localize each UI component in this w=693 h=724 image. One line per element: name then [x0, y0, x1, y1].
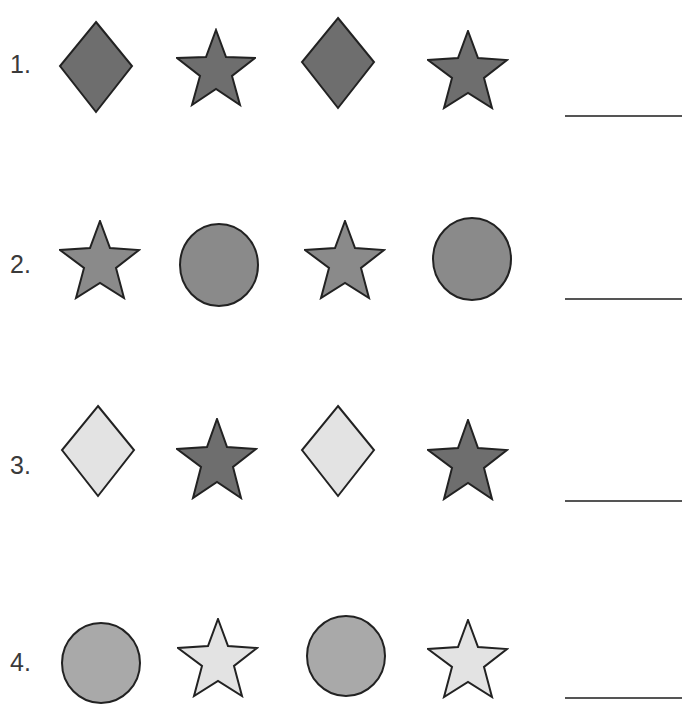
- answer-line-4[interactable]: [565, 697, 682, 699]
- answer-line-2[interactable]: [565, 298, 682, 300]
- row-3-number: 3.: [10, 451, 31, 480]
- diamond-icon: [58, 20, 134, 116]
- star-icon: [427, 619, 509, 699]
- star-icon: [176, 28, 256, 108]
- circle-icon: [60, 621, 142, 705]
- diamond-icon: [60, 404, 136, 500]
- star-icon: [427, 30, 509, 110]
- answer-line-1[interactable]: [565, 115, 682, 117]
- row-2-number: 2.: [10, 250, 31, 279]
- diamond-icon: [300, 16, 376, 112]
- star-icon: [176, 418, 258, 500]
- circle-icon: [305, 614, 387, 698]
- star-icon: [304, 220, 386, 300]
- circle-icon: [178, 222, 260, 308]
- diamond-icon: [300, 404, 376, 500]
- row-1-number: 1.: [10, 50, 31, 79]
- star-icon: [177, 618, 259, 698]
- answer-line-3[interactable]: [565, 500, 682, 502]
- circle-icon: [431, 216, 513, 302]
- star-icon: [59, 220, 141, 300]
- star-icon: [427, 419, 509, 501]
- row-4-number: 4.: [10, 648, 31, 677]
